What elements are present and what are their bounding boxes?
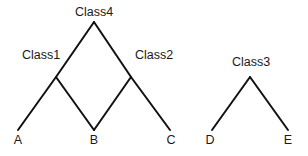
node-label-class4: Class4 (75, 5, 113, 19)
node-label-class3: Class3 (232, 55, 270, 69)
node-label-class1: Class1 (22, 48, 60, 62)
node-label-class2: Class2 (135, 48, 173, 62)
edge-class2-c (131, 77, 170, 130)
node-label-a: A (14, 133, 23, 147)
class-hierarchy-diagram: Class4Class1Class2Class3ABCDE (0, 0, 308, 156)
edges-group (18, 22, 288, 130)
edge-class1-b (56, 77, 94, 130)
edge-class3-e (250, 77, 288, 130)
node-label-b: B (90, 133, 98, 147)
edge-class2-b (94, 77, 131, 130)
edge-class3-d (212, 77, 250, 130)
node-label-d: D (205, 133, 214, 147)
edge-class4-class2 (94, 22, 131, 77)
edge-class4-class1 (56, 22, 94, 77)
node-label-e: E (284, 133, 292, 147)
node-label-c: C (166, 133, 175, 147)
edge-class1-a (18, 77, 56, 130)
